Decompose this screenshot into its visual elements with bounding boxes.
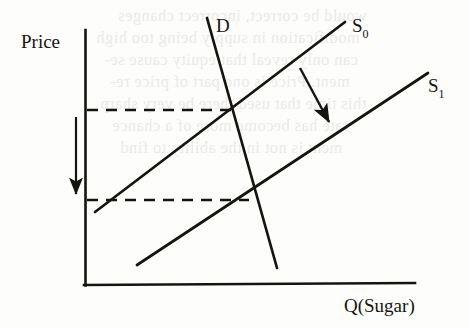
supply-shifted-label-base: S xyxy=(428,75,439,96)
plot-area: Price Q(Sugar) D S0 S1 xyxy=(0,0,470,328)
supply-initial-label-subscript: 0 xyxy=(363,27,369,41)
x-axis xyxy=(84,283,415,285)
supply-shifted-label: S1 xyxy=(428,75,445,101)
supply-curve-initial xyxy=(95,22,345,212)
demand-curve-label: D xyxy=(216,15,230,36)
supply-curve-shifted xyxy=(137,73,428,265)
supply-demand-figure: would be correct, incorrect changes modi… xyxy=(0,0,470,328)
supply-shift-arrow xyxy=(300,68,329,122)
x-axis-label: Q(Sugar) xyxy=(344,295,415,317)
supply-shifted-label-subscript: 1 xyxy=(439,87,445,101)
y-axis-label: Price xyxy=(21,31,60,52)
supply-initial-label-base: S xyxy=(352,15,363,36)
supply-initial-label: S0 xyxy=(352,15,369,41)
demand-curve xyxy=(207,18,277,268)
